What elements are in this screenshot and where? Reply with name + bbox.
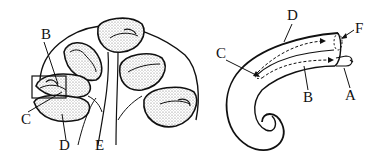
label-D-right: D — [287, 7, 298, 23]
canal-lower-right — [144, 87, 197, 126]
label-C-right: C — [216, 45, 226, 61]
canal-lower-left — [34, 95, 90, 121]
label-B-right: B — [303, 89, 313, 105]
canal-left — [36, 74, 90, 98]
canal-upper-right — [120, 54, 165, 90]
uncoiled-cochlea — [227, 33, 353, 150]
label-E-left: E — [95, 137, 104, 153]
cochlea-diagram: B C D E D F C B A — [0, 0, 380, 163]
canal-top — [98, 18, 144, 52]
label-C-left: C — [21, 111, 31, 127]
label-B-left: B — [41, 26, 51, 42]
right-labels: D F C B A — [216, 7, 363, 105]
label-A-right: A — [345, 87, 356, 103]
label-F-right: F — [355, 20, 363, 36]
label-D-left: D — [59, 137, 70, 153]
